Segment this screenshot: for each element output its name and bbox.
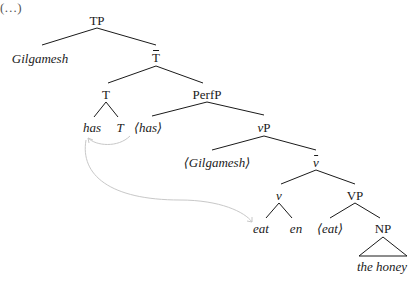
node-has-trace: ⟨has⟩ <box>134 121 162 135</box>
node-TP: TP <box>89 14 104 28</box>
syntax-tree: (…) <box>0 0 419 287</box>
node-the-honey: the honey <box>357 260 407 274</box>
node-en: en <box>290 222 302 236</box>
node-T: T <box>102 88 110 102</box>
node-T-affix: T <box>116 121 123 135</box>
node-vP: vP <box>257 121 270 135</box>
node-eat: eat <box>253 222 269 236</box>
node-spec-gilgamesh: Gilgamesh <box>12 52 68 66</box>
movement-arrows <box>85 136 252 222</box>
tree-branches <box>0 0 419 287</box>
node-v-bar: v <box>313 156 319 170</box>
node-VP: VP <box>347 189 364 203</box>
node-has: has <box>83 121 101 135</box>
node-v: v <box>276 189 282 203</box>
node-gilgamesh-trace: ⟨Gilgamesh⟩ <box>184 156 250 170</box>
node-PerfP: PerfP <box>193 88 222 102</box>
node-eat-trace: ⟨eat⟩ <box>317 222 343 236</box>
node-T-bar: T <box>152 51 160 65</box>
node-NP: NP <box>375 222 392 236</box>
